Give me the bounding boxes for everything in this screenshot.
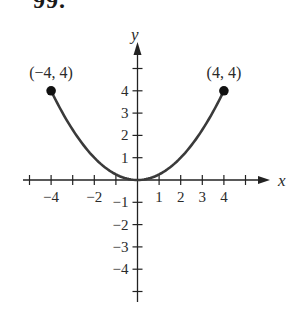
- x-tick-label: 3: [199, 189, 207, 205]
- endpoint-dot: [219, 86, 229, 96]
- x-tick-label: 1: [155, 189, 163, 205]
- y-tick-label: −4: [113, 261, 129, 277]
- y-tick-label: 3: [121, 105, 129, 121]
- x-tick-label: 4: [220, 189, 228, 205]
- axes: [23, 42, 270, 302]
- endpoint-label: (4, 4): [207, 64, 242, 82]
- x-axis-label: x: [277, 171, 286, 190]
- y-axis-label: y: [129, 25, 139, 44]
- endpoint-label: (−4, 4): [29, 64, 73, 82]
- y-tick-label: 2: [121, 127, 129, 143]
- y-tick-label: −1: [113, 194, 129, 210]
- y-tick-label: 4: [121, 83, 129, 99]
- x-axis-arrow-icon: [258, 176, 270, 184]
- parabola-graph: xy−4−212344321−1−2−3−4 (−4, 4)(4, 4): [0, 0, 307, 322]
- x-tick-label: −4: [43, 189, 59, 205]
- endpoint-dot: [46, 86, 56, 96]
- x-tick-label: −2: [86, 189, 102, 205]
- y-tick-label: 1: [121, 150, 129, 166]
- tick-labels: xy−4−212344321−1−2−3−4: [43, 25, 286, 277]
- y-tick-label: −2: [113, 217, 129, 233]
- x-tick-label: 2: [177, 189, 185, 205]
- y-tick-label: −3: [113, 239, 129, 255]
